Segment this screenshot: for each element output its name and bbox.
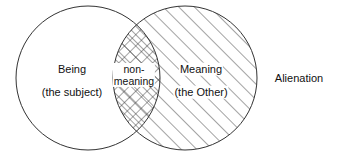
non-meaning-label-line1: non- (114, 63, 154, 75)
venn-diagram: Being (the subject) non- meaning Meaning… (0, 0, 346, 165)
alienation-label: Alienation (275, 72, 323, 85)
being-label-subtitle: (the subject) (42, 86, 103, 99)
meaning-label-title: Meaning (179, 63, 223, 76)
non-meaning-label: non- meaning (113, 63, 155, 87)
non-meaning-label-line2: meaning (114, 75, 154, 87)
meaning-label-subtitle: (the Other) (173, 86, 228, 99)
being-label-title: Being (58, 63, 86, 76)
